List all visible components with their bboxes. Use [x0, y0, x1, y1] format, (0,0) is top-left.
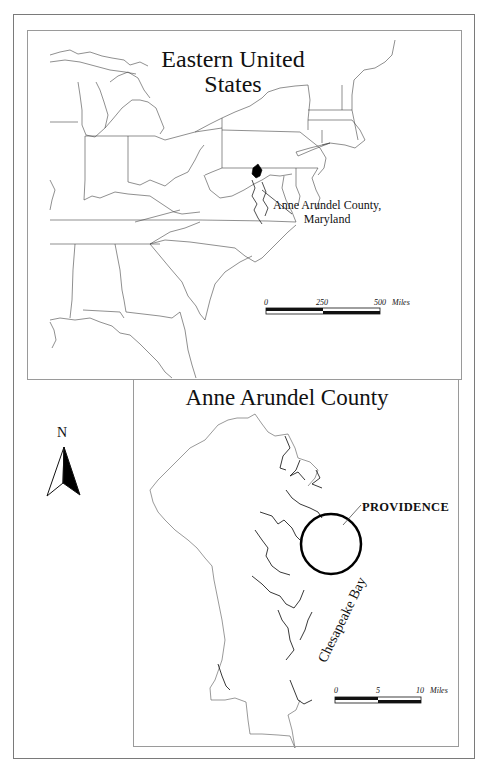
anne-arundel-panel [133, 379, 459, 747]
bottom-scale-tick-5: 5 [376, 686, 380, 695]
top-scale-unit: Miles [392, 298, 410, 307]
top-scale-tick-500: 500 [374, 298, 386, 307]
county-callout-label: Anne Arundel County, Maryland [273, 198, 381, 227]
title-line-2: States [148, 72, 318, 97]
title-line-1: Eastern United [148, 47, 318, 72]
providence-label: PROVIDENCE [362, 500, 449, 515]
callout-line-2: Maryland [273, 212, 381, 226]
bottom-scale-tick-10: 10 [416, 686, 424, 695]
north-arrow-icon [47, 447, 80, 496]
top-scale-bar [266, 308, 380, 314]
bottom-scale-unit: Miles [430, 686, 448, 695]
anne-arundel-marker [252, 164, 262, 178]
callout-line-1: Anne Arundel County, [273, 198, 381, 212]
bottom-scale-tick-0: 0 [334, 686, 338, 695]
top-map-title: Eastern United States [148, 47, 318, 97]
north-label: N [57, 425, 67, 441]
top-scale-tick-250: 250 [316, 298, 328, 307]
top-scale-tick-0: 0 [264, 298, 268, 307]
bottom-map-title: Anne Arundel County [170, 386, 404, 410]
